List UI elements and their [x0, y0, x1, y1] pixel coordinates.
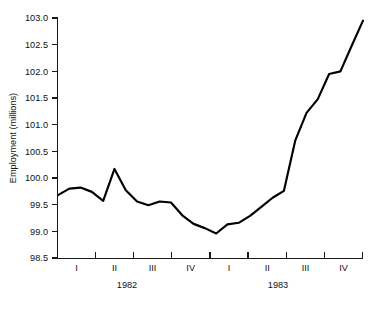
y-tick-label-99-5: 99.5 [30, 200, 48, 210]
y-tick-label-100-5: 100.5 [25, 147, 48, 157]
line-chart: 103.0 102.5 102.0 101.5 101.0 100.5 100.… [0, 0, 383, 310]
x-tick-label-q2-1983: II [265, 263, 270, 273]
y-axis-title: Employment (millions) [8, 93, 18, 183]
employment-line [58, 21, 363, 234]
y-axis-group: 103.0 102.5 102.0 101.5 101.0 100.5 100.… [8, 13, 58, 263]
x-year-label-1983: 1983 [268, 280, 288, 290]
x-axis-group: I II III IV I II III IV 1982 1983 [58, 252, 364, 290]
x-tick-label-q1-1982: I [75, 263, 78, 273]
x-tick-label-q3-1983: III [302, 263, 310, 273]
x-tick-label-q2-1982: II [112, 263, 117, 273]
chart-container: 103.0 102.5 102.0 101.5 101.0 100.5 100.… [0, 0, 383, 310]
y-tick-label-101-0: 101.0 [25, 120, 48, 130]
y-tick-label-98-5: 98.5 [30, 253, 48, 263]
x-tick-label-q4-1982: IV [186, 263, 196, 273]
y-tick-label-102-0: 102.0 [25, 67, 48, 77]
x-tick-label-q4-1983: IV [339, 263, 349, 273]
plot-area [58, 21, 363, 234]
y-tick-label-99-0: 99.0 [30, 227, 48, 237]
x-tick-label-q3-1982: III [149, 263, 157, 273]
y-tick-label-102-5: 102.5 [25, 40, 48, 50]
x-year-label-1982: 1982 [117, 280, 137, 290]
y-tick-label-103-0: 103.0 [25, 13, 48, 23]
y-tick-label-100-0: 100.0 [25, 173, 48, 183]
y-tick-label-101-5: 101.5 [25, 93, 48, 103]
x-tick-label-q1-1983: I [228, 263, 231, 273]
